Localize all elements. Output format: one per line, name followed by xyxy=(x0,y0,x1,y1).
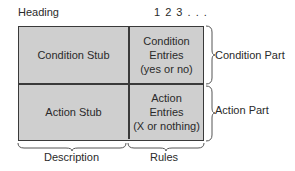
action-part-brace xyxy=(206,86,215,141)
description-label: Description xyxy=(44,151,99,163)
action-part-label: Action Part xyxy=(215,104,269,116)
condition-part-label: Condition Part xyxy=(215,49,285,61)
rules-brace xyxy=(128,143,204,151)
condition-part-brace xyxy=(206,26,215,84)
rules-label: Rules xyxy=(150,151,178,163)
description-brace xyxy=(18,143,126,151)
braces xyxy=(0,0,295,171)
